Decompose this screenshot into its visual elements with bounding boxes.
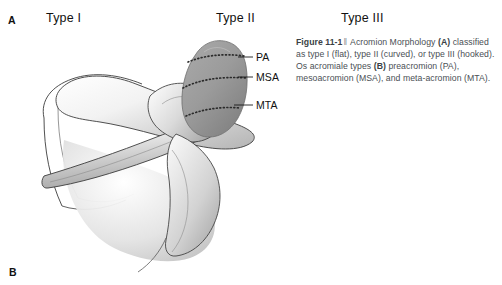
label-meta-acromion: MTA <box>256 99 278 111</box>
panel-label-a: A <box>8 14 16 26</box>
panel-label-b: B <box>9 266 17 278</box>
column-header-type-ii: Type II <box>216 11 255 25</box>
caption-marker-b: (B) <box>374 61 386 71</box>
caption-title: Acromion Morphology <box>348 37 438 47</box>
column-header-type-i: Type I <box>46 11 81 25</box>
figure-caption: Figure 11-1‖ Acromion Morphology (A) cla… <box>296 37 498 85</box>
column-header-type-iii: Type III <box>341 11 384 25</box>
caption-marker-a: (A) <box>438 37 450 47</box>
label-mesoacromion: MSA <box>256 71 279 83</box>
label-preacromion: PA <box>256 51 269 63</box>
acromion-os-acromiale <box>182 41 247 137</box>
caption-figure-number: Figure 11-1 <box>296 37 342 47</box>
